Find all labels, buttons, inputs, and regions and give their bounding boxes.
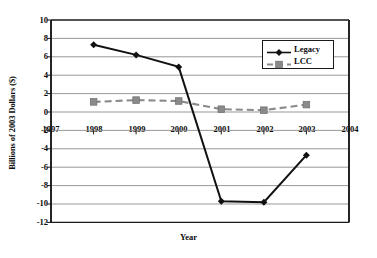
data-point-marker: [90, 99, 97, 106]
data-point-marker: [175, 98, 182, 105]
legacy-line-marker-icon: [266, 44, 292, 55]
data-point-marker: [133, 51, 140, 58]
data-point-marker: [175, 63, 182, 70]
data-point-marker: [90, 41, 97, 48]
lcc-line-marker-icon: [266, 56, 292, 67]
data-point-marker: [133, 97, 140, 104]
legend-label-legacy: Legacy: [294, 44, 320, 54]
data-point-marker: [261, 107, 268, 114]
legend-label-lcc: LCC: [294, 56, 312, 66]
chart-figure: Billions of 2003 Dollars ($) 10 8 6 4 2 …: [0, 0, 377, 258]
legend-entry-lcc: LCC: [266, 55, 329, 67]
series-lcc: [90, 97, 309, 114]
x-axis-title: Year: [0, 232, 377, 242]
plot-area: [0, 0, 377, 258]
data-point-marker: [303, 101, 310, 108]
chart-legend: Legacy LCC: [262, 40, 334, 69]
legend-entry-legacy: Legacy: [266, 43, 329, 55]
data-point-marker: [218, 106, 225, 113]
